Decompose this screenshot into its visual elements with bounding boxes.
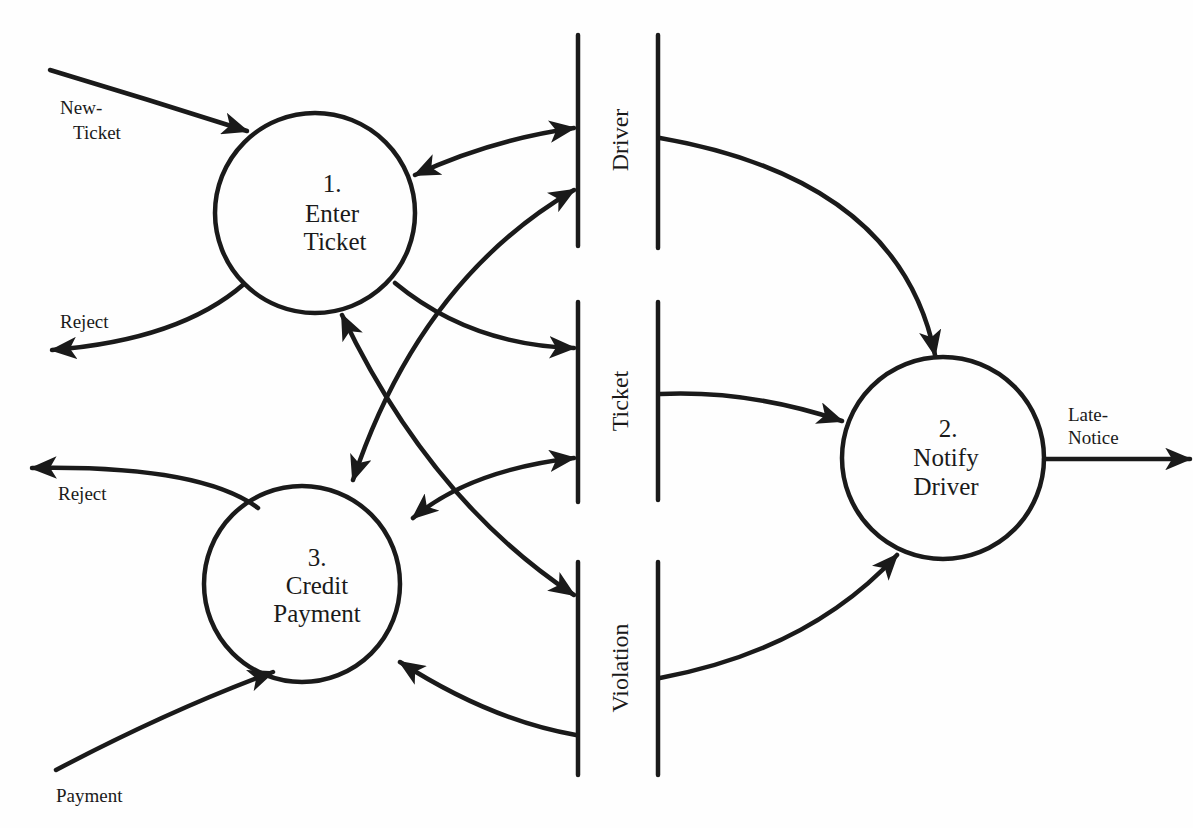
- process-number: 2.: [939, 415, 958, 442]
- flow-p1-driver: [415, 128, 574, 175]
- store-driver-label: Driver: [607, 109, 633, 172]
- store-violation-label: Violation: [607, 623, 633, 712]
- flow-payment-label: Payment: [56, 785, 123, 806]
- flow-late-notice-label-2: Notice: [1068, 427, 1119, 448]
- flow-reject-1-label: Reject: [60, 311, 109, 332]
- process-credit-payment: 3. Credit Payment: [204, 486, 400, 682]
- process-notify-driver: 2. Notify Driver: [842, 357, 1044, 559]
- process-label-line2: Driver: [913, 473, 979, 500]
- flow-driver-p2: [660, 138, 935, 355]
- store-driver: Driver: [578, 35, 658, 248]
- flow-payment-arrow: [56, 672, 273, 770]
- flow-reject-2-label: Reject: [58, 483, 107, 504]
- store-violation: Violation: [578, 562, 658, 775]
- process-label-line2: Payment: [273, 600, 361, 627]
- store-ticket: Ticket: [578, 302, 658, 502]
- process-label-line1: Enter: [305, 200, 360, 227]
- process-label-line1: Notify: [913, 444, 979, 471]
- process-number: 1.: [323, 170, 342, 197]
- flow-late-notice-label-1: Late-: [1068, 404, 1108, 425]
- process-number: 3.: [308, 544, 327, 571]
- flow-new-ticket-label-2: Ticket: [73, 122, 122, 143]
- flow-p1-violation: [342, 315, 574, 595]
- process-label-line1: Credit: [286, 572, 349, 599]
- flow-ticket-p2: [660, 394, 842, 421]
- data-flow-diagram: Driver Ticket Violation 1. Enter Ticket …: [0, 0, 1193, 828]
- flow-new-ticket-label-1: New-: [60, 97, 102, 118]
- store-ticket-label: Ticket: [607, 370, 633, 431]
- flow-violation-p2: [660, 555, 897, 678]
- process-label-line2: Ticket: [304, 228, 367, 255]
- flow-violation-p3: [400, 662, 576, 735]
- flow-p3-driver: [353, 190, 574, 480]
